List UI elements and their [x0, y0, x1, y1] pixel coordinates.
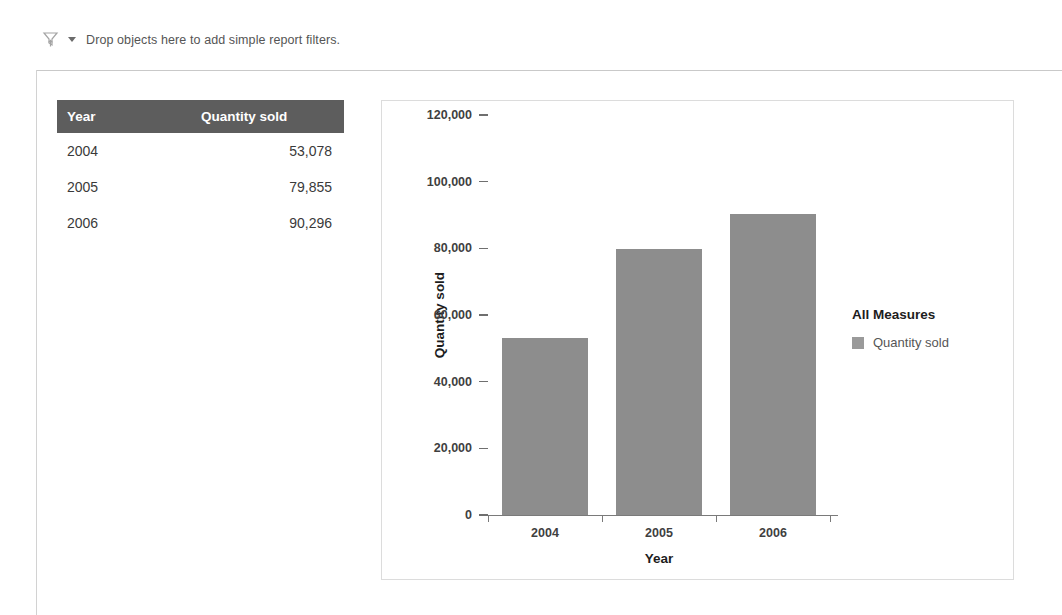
legend-swatch-icon [852, 337, 864, 349]
y-axis-tick: 80,000 [416, 241, 488, 255]
column-header-quantity-sold[interactable]: Quantity sold [191, 100, 344, 133]
table-header-row: Year Quantity sold [57, 100, 344, 133]
bar-2006[interactable] [730, 214, 816, 515]
x-axis-tick-label: 2006 [759, 526, 787, 540]
cell-quantity: 90,296 [191, 205, 344, 241]
y-axis-tick-label: 20,000 [416, 441, 472, 455]
cell-year: 2006 [57, 205, 191, 241]
x-axis-tick-mark [488, 515, 489, 522]
table-row[interactable]: 2005 79,855 [57, 169, 344, 205]
cell-quantity: 79,855 [191, 169, 344, 205]
y-axis-tick-mark [479, 448, 488, 450]
bar-2004[interactable] [502, 338, 588, 515]
table-row[interactable]: 2006 90,296 [57, 205, 344, 241]
x-axis-tick-mark [602, 515, 603, 522]
y-axis-tick: 120,000 [416, 108, 488, 122]
y-axis-tick: 100,000 [416, 175, 488, 189]
legend-entry[interactable]: Quantity sold [852, 335, 1002, 350]
x-axis-tick-label: 2004 [531, 526, 559, 540]
y-axis-tick: 40,000 [416, 375, 488, 389]
y-axis-tick-mark [479, 514, 488, 516]
plot-area: 020,00040,00060,00080,000100,000120,000 [488, 115, 830, 515]
y-axis-tick-mark [479, 181, 488, 183]
x-axis-tick-mark [830, 515, 831, 522]
y-axis-tick: 0 [416, 508, 488, 522]
filter-drop-hint: Drop objects here to add simple report f… [86, 33, 340, 47]
y-axis-tick-label: 120,000 [416, 108, 472, 122]
filter-bar-divider [36, 70, 1062, 71]
legend-entry-label: Quantity sold [873, 335, 949, 350]
y-axis-tick-label: 60,000 [416, 308, 472, 322]
x-axis-tick-mark [716, 515, 717, 522]
y-axis-tick-mark [479, 381, 488, 383]
table-row[interactable]: 2004 53,078 [57, 133, 344, 169]
x-axis-title: Year [488, 551, 830, 566]
legend-title: All Measures [852, 307, 1002, 322]
cell-quantity: 53,078 [191, 133, 344, 169]
y-axis-tick-mark [479, 314, 488, 316]
y-axis-tick-label: 0 [416, 508, 472, 522]
filter-funnel-icon[interactable] [42, 31, 60, 48]
cell-year: 2004 [57, 133, 191, 169]
y-axis-tick-mark [479, 248, 488, 250]
y-axis-tick-label: 80,000 [416, 241, 472, 255]
left-panel-divider [36, 70, 37, 615]
y-axis-tick-label: 40,000 [416, 375, 472, 389]
bar-2005[interactable] [616, 249, 702, 515]
column-header-year[interactable]: Year [57, 100, 191, 133]
chart-legend: All Measures Quantity sold [852, 307, 1002, 350]
x-axis-tick-label: 2005 [645, 526, 673, 540]
x-axis-line [488, 515, 838, 516]
bar-chart-panel[interactable]: Quantity sold 020,00040,00060,00080,0001… [381, 100, 1014, 580]
chevron-down-icon[interactable] [68, 37, 76, 42]
y-axis-tick: 20,000 [416, 441, 488, 455]
report-filter-bar[interactable]: Drop objects here to add simple report f… [0, 0, 1062, 70]
cell-year: 2005 [57, 169, 191, 205]
filter-bar-content: Drop objects here to add simple report f… [42, 31, 340, 48]
quantity-sold-table: Year Quantity sold 2004 53,078 2005 79,8… [57, 100, 344, 241]
y-axis-tick-mark [479, 114, 488, 116]
y-axis-tick: 60,000 [416, 308, 488, 322]
y-axis-tick-label: 100,000 [416, 175, 472, 189]
